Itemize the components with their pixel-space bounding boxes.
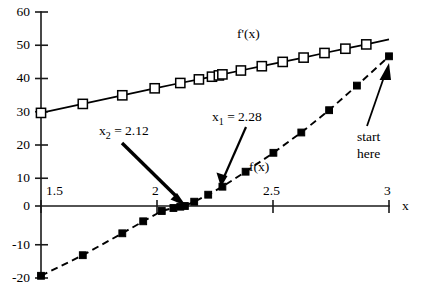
start-here-arrow-shaft [367,77,384,126]
series-f [38,53,393,279]
marker-f-3 [140,218,147,225]
axes-group [41,12,389,278]
marker-f-16 [386,53,393,60]
f-line [41,56,389,275]
x-tick-label-3: 3 [384,184,391,198]
marker-f-prime-15 [362,40,371,49]
x-tick-label-2-5: 2.5 [263,184,280,198]
marker-f-2 [119,230,126,237]
y-tick-label-30: 30 [0,105,30,119]
f-prime-series-label: f'(x) [237,27,260,41]
marker-f-8 [191,198,198,205]
y-tick-label-50: 50 [0,38,30,52]
marker-f-prime-2 [118,91,127,100]
marker-f-prime-3 [150,84,159,93]
marker-f-prime-1 [78,99,87,108]
f-series-label: f(x) [249,160,269,174]
newton-method-chart: 60 50 40 30 20 10 0 -10 -20 1.5 2 2.5 3 … [0,0,426,286]
annotation-x2-value: = 2.12 [111,123,149,138]
start-here-arrow-head [380,63,392,80]
y-tick-label-0: 0 [0,199,30,213]
marker-f-15 [354,82,361,89]
annotation-x1-label: x1 = 2.28 [212,110,262,124]
marker-f-9 [205,191,212,198]
marker-f-12 [270,149,277,156]
marker-f-prime-14 [341,44,350,53]
annotation-x2-label: x2 = 2.12 [99,124,149,138]
y-tick-label-40: 40 [0,71,30,85]
annotation-start-here-line1: start [357,128,380,145]
annotation-x2-var: x [99,123,106,138]
marker-f-prime-9 [236,66,245,75]
marker-f-11 [242,168,249,175]
marker-f-0 [38,272,45,279]
annotation-arrow-start-here [367,63,391,126]
x-tick-label-1-5: 1.5 [46,184,63,198]
annotation-x1-value: = 2.28 [224,109,262,124]
marker-f-prime-4 [176,78,185,87]
y-tick-label-neg20: -20 [0,271,30,285]
series-f-prime [36,39,389,117]
x-tick-label-2: 2 [152,184,159,198]
marker-f-prime-8 [218,70,227,79]
annotation-arrow-x1 [217,127,247,187]
y-tick-label-20: 20 [0,138,30,152]
marker-f-prime-12 [299,53,308,62]
y-tick-label-10: 10 [0,171,30,185]
marker-f-1 [79,252,86,259]
marker-f-prime-13 [320,48,329,57]
marker-f-prime-5 [194,75,203,84]
y-tick-label-60: 60 [0,5,30,19]
marker-f-4 [158,208,165,215]
marker-f-14 [326,107,333,114]
annotation-x1-var: x [212,109,219,124]
marker-f-prime-11 [278,57,287,66]
marker-f-5 [170,205,177,212]
annotation-start-here: start here [357,128,380,163]
x2-arrow-shaft [122,143,178,198]
marker-f-13 [298,129,305,136]
x-axis-label: x [402,199,409,213]
y-tick-label-neg10: -10 [0,238,30,252]
marker-f-prime-0 [36,108,45,117]
annotation-start-here-line2: here [357,145,380,162]
marker-f-prime-10 [257,62,266,71]
